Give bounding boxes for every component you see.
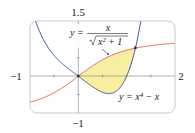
eq1-numerator: x <box>105 22 111 33</box>
equation-quartic-label: y = x⁴ − x <box>118 91 160 102</box>
chart: 1.5 −1 −1 2 y = x x² + 1 y = x⁴ − x <box>0 0 195 133</box>
y-min-label: −1 <box>72 117 84 129</box>
x-min-label: −1 <box>10 70 22 82</box>
equation-sqrt-label: y = x x² + 1 <box>66 22 132 48</box>
y-max-label: 1.5 <box>71 6 85 18</box>
eq1-denominator: x² + 1 <box>97 36 122 47</box>
eq1-lhs: y = <box>69 27 84 38</box>
intersection-origin <box>77 75 80 78</box>
pointer-dot <box>107 53 109 55</box>
intersection-point <box>134 47 137 50</box>
x-max-label: 2 <box>178 70 184 82</box>
